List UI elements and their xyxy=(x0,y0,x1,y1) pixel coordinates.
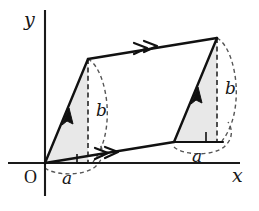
origin-label: O xyxy=(24,168,37,186)
right-triangle-height-label: b xyxy=(225,80,236,97)
top-edge-double-chevron xyxy=(134,41,157,54)
geometry-figure: y x O a b a b xyxy=(0,0,259,211)
figure-canvas xyxy=(0,0,259,211)
left-triangle-height-label: b xyxy=(96,102,107,119)
bottom-edge-double-chevron xyxy=(95,147,118,159)
right-triangle-base-label: a xyxy=(192,148,202,165)
x-axis-label: x xyxy=(232,166,243,185)
y-axis-label: y xyxy=(24,10,35,29)
left-triangle-base-label: a xyxy=(62,170,72,187)
